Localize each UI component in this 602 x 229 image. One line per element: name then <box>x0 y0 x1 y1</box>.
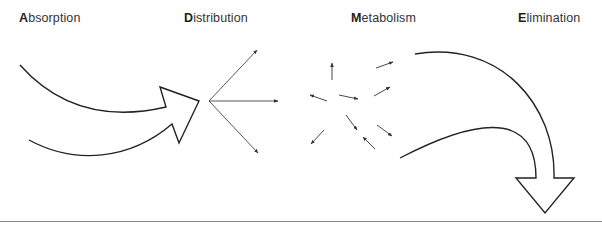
adme-diagram <box>0 0 602 229</box>
absorption-arrow-icon <box>20 65 199 156</box>
metabolism-arrows-icon <box>310 62 393 149</box>
distribution-arrows-icon <box>209 50 278 153</box>
elimination-arrow-icon <box>400 52 574 213</box>
